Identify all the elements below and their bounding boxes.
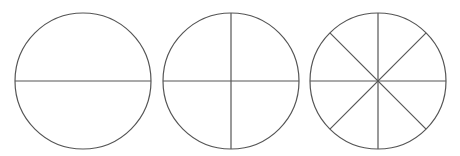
circle-quarters	[163, 13, 299, 149]
circle-eighths	[310, 13, 446, 149]
circle-halves	[15, 13, 151, 149]
fraction-circles-diagram	[0, 0, 460, 156]
